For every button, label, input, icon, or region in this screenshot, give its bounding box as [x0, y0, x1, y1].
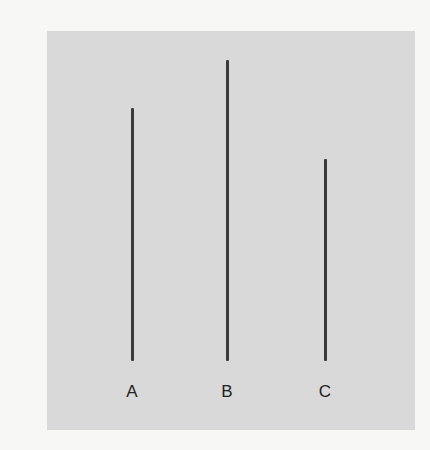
label-b: B — [212, 382, 242, 402]
line-c — [324, 159, 327, 361]
label-c: C — [310, 382, 340, 402]
line-b — [226, 60, 229, 361]
figure-panel: A B C — [47, 31, 415, 430]
line-a — [131, 108, 134, 361]
label-a: A — [117, 382, 147, 402]
